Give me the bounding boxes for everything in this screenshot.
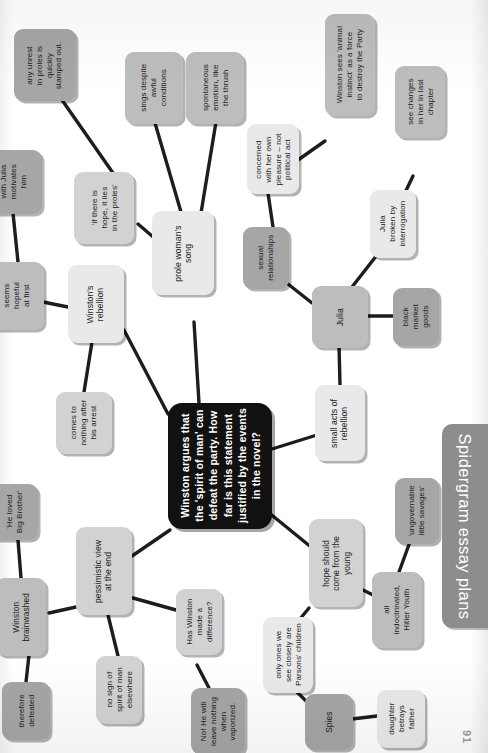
edge-central-pessimistic	[132, 530, 170, 556]
node-sings-despite: sings despite awful conditions	[125, 52, 183, 124]
node-hope-should-come-from-young: hope should come from the young	[309, 519, 363, 607]
node-seems-hopeful: seems hopeful at first	[0, 262, 44, 330]
node-label: 'He loved Big Brother'	[4, 491, 24, 534]
node-label: prole woman's song	[173, 225, 194, 281]
edge-song-spontaneous	[201, 122, 216, 213]
page-number: 91	[460, 731, 474, 743]
node-label: no sign of spirit of man elsewhere	[104, 668, 133, 713]
node-label: Winston brainwashed	[11, 593, 32, 642]
edge-pessimistic-has-winston	[133, 598, 176, 610]
node-label: Spies	[324, 711, 334, 732]
node-label: comes to nothing after his arrest	[69, 400, 98, 446]
node-he-loved-big-brother: 'He loved Big Brother'	[0, 484, 38, 540]
node-label: hope should come from the young	[321, 536, 352, 591]
node-pessimistic-view: pessimistic view at the end	[76, 527, 132, 615]
node-has-winston-made-difference: Has Winston made a difference?	[176, 589, 222, 655]
node-therefore-defeated: therefore defeated	[2, 682, 50, 740]
node-label: with Julia motivates him	[0, 164, 29, 199]
node-label: any unrest in proles is quickly stamped …	[25, 41, 64, 88]
node-julia: Julia	[312, 286, 368, 348]
node-label: Winston sees 'animal instinct' as a forc…	[335, 26, 364, 103]
node-winston-sees-animal-instinct: Winston sees 'animal instinct' as a forc…	[325, 14, 375, 116]
node-label: all indoctrinated, Hitler Youth	[382, 585, 411, 634]
node-with-julia-motivates: with Julia motivates him	[0, 150, 42, 214]
node-winston-brainwashed: Winston brainwashed	[0, 578, 46, 656]
node-label: Julia	[335, 308, 345, 326]
node-label: small acts of rebellion	[330, 398, 351, 447]
edge-central-prole-song	[194, 322, 199, 403]
edge-song-sings-despite	[155, 123, 181, 212]
edge-pessimistic-no-sign	[108, 615, 118, 656]
central-question-node: Winston argues that the 'spirit of man' …	[168, 403, 272, 529]
edge-concerned-winston-sees	[298, 141, 325, 160]
edge-sexual-concerned	[268, 193, 273, 227]
edge-brainwashed-he-loved-bb	[18, 540, 21, 578]
node-label: Winston's rebellion	[86, 285, 107, 323]
edge-julia-sexual	[288, 284, 312, 303]
node-comes-to-nothing: comes to nothing after his arrest	[56, 392, 112, 454]
edge-central-winstons-rebellion	[124, 330, 168, 414]
node-small-acts-of-rebellion: small acts of rebellion	[315, 385, 365, 461]
node-any-unrest: any unrest in proles is quickly stamped …	[14, 29, 76, 101]
node-if-there-is-hope: 'if there is hope, it lies in the proles…	[74, 172, 134, 244]
node-sexual-relationships: sexual relationships	[243, 227, 289, 289]
page-number-text: 91	[461, 730, 473, 744]
edge-pessimistic-winston-brainwashed	[49, 607, 76, 613]
central-question-text: Winston argues that the 'spirit of man' …	[177, 409, 262, 524]
node-black-market-goods: black market goods	[393, 288, 439, 346]
node-spontaneous-emotion: spontaneous emotion, like the thrush	[186, 52, 244, 124]
node-no-he-will-leave-nothing: No! He will leave nothing when vaporized…	[191, 688, 245, 753]
node-label: No! He will leave nothing when vaporized…	[199, 697, 238, 746]
node-winstons-rebellion: Winston's rebellion	[68, 265, 124, 343]
edge-rebellion-comes-to-nothing	[84, 342, 92, 392]
node-label: therefore defeated	[16, 695, 36, 728]
node-only-ones-parsons-children: only ones we see closely are Parsons' ch…	[263, 617, 313, 693]
node-label: only ones we see closely are Parsons' ch…	[273, 624, 302, 687]
edge-rebellion-seems-hopeful	[43, 302, 68, 307]
edge-small-acts-julia	[339, 345, 340, 385]
node-label: 'if there is hope, it lies in the proles…	[89, 185, 118, 232]
spidergram-page: Winston argues that the 'spirit of man' …	[0, 0, 488, 753]
section-title-text: Spidergram essay plans	[456, 433, 475, 619]
node-daughter-betrays-father: daughter betrays father	[377, 690, 425, 748]
node-label: sings despite awful conditions	[139, 64, 168, 112]
node-julia-broken-interrogation: Julia broken by interrogation	[370, 190, 416, 258]
node-label: seems hopeful at first	[1, 283, 30, 310]
node-concerned-own-pleasure: concerned with her own pleasure – not po…	[247, 124, 299, 194]
node-label: concerned with her own pleasure – not po…	[254, 133, 293, 185]
node-label: black market goods	[401, 304, 430, 329]
node-label: spontaneous emotion, like the thrush	[200, 65, 229, 112]
node-label: see changes in her in last chapter	[405, 79, 434, 125]
node-see-changes-last-chapter: see changes in her in last chapter	[395, 66, 445, 138]
node-prole-womans-song: prole woman's song	[152, 211, 214, 295]
node-ungovernable-little-savages: 'ungovernable little savages'	[395, 478, 439, 544]
node-label: Julia broken by interrogation	[378, 201, 407, 247]
node-no-sign-of-spirit: no sign of spirit of man elsewhere	[96, 656, 142, 724]
edge-has-winston-no-he-will	[197, 665, 209, 688]
edge-julia-broken	[352, 255, 377, 287]
node-label: Has Winston made a difference?	[184, 599, 213, 645]
node-label: pessimistic view at the end	[94, 539, 115, 602]
section-title-banner: Spidergram essay plans	[442, 424, 488, 628]
node-label: sexual relationships	[256, 235, 276, 281]
node-all-indoctrinated-hitler-youth: all indoctrinated, Hitler Youth	[372, 572, 422, 648]
edge-hope-any-unrest	[62, 100, 113, 173]
edge-spies-daughter	[352, 716, 377, 719]
node-label: daughter betrays father	[386, 703, 415, 735]
edge-seems-hopeful-with-julia	[13, 213, 18, 262]
node-label: 'ungovernable little savages'	[407, 485, 427, 536]
edge-brainwashed-therefore-defeated	[26, 655, 29, 682]
node-spies: Spies	[305, 694, 353, 750]
